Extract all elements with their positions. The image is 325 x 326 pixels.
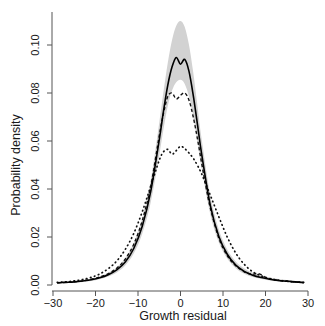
x-tick-label: 20 <box>259 297 271 309</box>
series-line-dashed <box>57 93 304 283</box>
y-tick-label: 0.00 <box>29 274 41 295</box>
plot-lines-layer <box>57 57 304 282</box>
y-tick-label: 0.06 <box>29 130 41 151</box>
plot-ribbon-layer <box>57 21 304 283</box>
y-axis-tick-labels: 0.000.020.040.060.080.10 <box>29 34 41 295</box>
y-tick-label: 0.10 <box>29 34 41 55</box>
x-tick-label: −10 <box>129 297 148 309</box>
y-axis-ticks <box>47 45 52 285</box>
y-tick-label: 0.02 <box>29 226 41 247</box>
confidence-band <box>57 21 304 283</box>
y-tick-label: 0.08 <box>29 82 41 103</box>
plot-canvas: −30−20−100102030 0.000.020.040.060.080.1… <box>0 0 325 326</box>
y-tick-label: 0.04 <box>29 178 41 199</box>
x-axis-tick-labels: −30−20−100102030 <box>44 297 314 309</box>
x-tick-label: 10 <box>217 297 229 309</box>
y-axis-title: Probability density <box>9 114 23 216</box>
x-tick-label: −20 <box>86 297 105 309</box>
x-axis-title: Growth residual <box>139 309 227 323</box>
x-tick-label: 30 <box>302 297 314 309</box>
series-line-solid <box>57 57 304 282</box>
x-tick-label: −30 <box>44 297 63 309</box>
density-plot-figure: −30−20−100102030 0.000.020.040.060.080.1… <box>0 0 325 326</box>
series-line-dotted <box>57 146 304 282</box>
x-axis-ticks <box>53 291 308 296</box>
x-tick-label: 0 <box>177 297 183 309</box>
